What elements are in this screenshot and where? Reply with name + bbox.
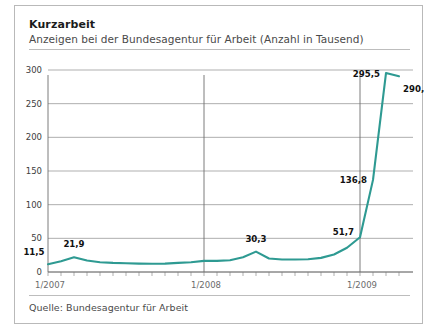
source-note: Quelle: Bundesagentur für Arbeit [29,302,188,313]
y-tick-label: 150 [26,166,42,176]
y-tick-label: 200 [26,132,42,142]
data-point-label: 290,6 [403,84,424,94]
x-axis-tick-marks [48,272,399,276]
y-tick-label: 250 [26,99,42,109]
y-tick-label: 50 [31,233,42,243]
chart-plot-area: 050100150200250300 1/20071/20081/2009 11… [15,6,424,325]
data-point-label: 51,7 [333,227,354,237]
y-tick-label: 100 [26,200,42,210]
x-axis-tick-labels: 1/20071/20081/2009 [35,280,377,290]
data-point-labels: 11,521,930,351,7136,8295,5290,6 [23,69,424,257]
chart-card: Kurzarbeit Anzeigen bei der Bundesagentu… [14,5,423,324]
footer-divider [29,295,410,296]
x-tick-label: 1/2007 [35,280,65,290]
data-point-label: 136,8 [340,175,367,185]
y-tick-label: 0 [37,267,42,277]
y-tick-label: 300 [26,65,42,75]
x-tick-label: 1/2008 [191,280,221,290]
data-point-label: 21,9 [63,239,84,249]
x-tick-label: 1/2009 [347,280,377,290]
data-point-label: 30,3 [245,234,266,244]
data-point-label: 295,5 [353,69,380,79]
data-point-label: 11,5 [23,247,44,257]
y-axis-tick-labels: 050100150200250300 [26,65,42,277]
gridlines-group [48,70,413,272]
line-chart: 050100150200250300 1/20071/20081/2009 11… [15,6,424,325]
